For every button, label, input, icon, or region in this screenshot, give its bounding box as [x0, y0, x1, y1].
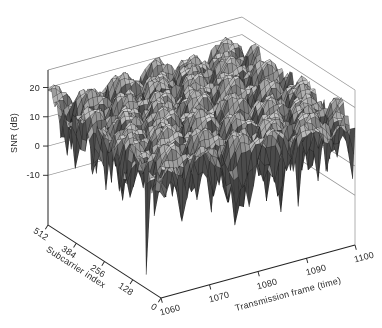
surface-plot-canvas [0, 0, 382, 328]
snr-surface-figure: SNR (dB) Subcarrier index Transmission f… [0, 0, 382, 328]
